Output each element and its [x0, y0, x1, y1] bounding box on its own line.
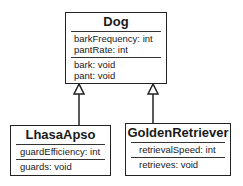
operations-section: guards: void	[11, 160, 110, 174]
class-goldenretriever: GoldenRetriever retrievalSpeed: int retr…	[125, 123, 231, 176]
class-dog: Dog barkFrequency: int pantRate: int bar…	[65, 12, 167, 84]
attributes-section: retrievalSpeed: int	[126, 143, 230, 157]
attribute: pantRate: int	[66, 44, 166, 55]
operation: retrieves: void	[126, 159, 230, 170]
operation: pant: void	[66, 70, 166, 81]
attribute: barkFrequency: int	[66, 33, 166, 44]
attributes-section: barkFrequency: int pantRate: int	[66, 32, 166, 57]
attribute: retrievalSpeed: int	[126, 144, 230, 155]
attributes-section: guardEfficiency: int	[11, 145, 110, 159]
operation: bark: void	[66, 59, 166, 70]
hollow-triangle-arrow-icon	[148, 84, 158, 94]
operations-section: bark: void pant: void	[66, 58, 166, 83]
hollow-triangle-arrow-icon	[74, 84, 84, 94]
attribute: guardEfficiency: int	[11, 146, 110, 157]
class-name: GoldenRetriever	[126, 124, 230, 142]
class-name: Dog	[66, 13, 166, 31]
operations-section: retrieves: void	[126, 158, 230, 172]
class-lhasaapso: LhasaApso guardEfficiency: int guards: v…	[10, 125, 111, 176]
operation: guards: void	[11, 161, 110, 172]
class-name: LhasaApso	[11, 126, 110, 144]
